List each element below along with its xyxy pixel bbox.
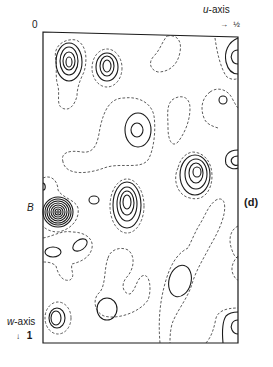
- w-axis-end: ↓ 1: [16, 331, 32, 341]
- u-axis-label: u-axis: [203, 5, 230, 15]
- peak-b: [43, 177, 78, 232]
- peak-right-middle: [176, 152, 212, 199]
- peak-center: [110, 179, 144, 233]
- map-frame: [43, 32, 238, 343]
- right-arrow-icon: →: [220, 20, 228, 29]
- origin-label: 0: [32, 20, 38, 30]
- u-axis-end: → ½: [220, 21, 240, 29]
- peak-mid-upper: [125, 113, 151, 147]
- u-axis-end-value: ½: [233, 20, 240, 29]
- peak-b-label: B: [27, 203, 34, 213]
- panel-label: (d): [244, 197, 258, 208]
- w-axis-suffix: -axis: [14, 316, 35, 327]
- peak-bottom-right-edge: [206, 308, 238, 343]
- peak-bottom-left: [45, 302, 71, 334]
- u-axis-suffix: -axis: [209, 4, 230, 15]
- contour-map: [0, 0, 273, 367]
- w-axis-end-value: 1: [27, 330, 33, 341]
- peak-top-left: [55, 40, 86, 109]
- down-arrow-icon: ↓: [16, 332, 20, 341]
- peak-top-second: [92, 49, 122, 87]
- peak-top-right-edge: [215, 38, 238, 79]
- w-axis-label: w-axis: [7, 317, 35, 327]
